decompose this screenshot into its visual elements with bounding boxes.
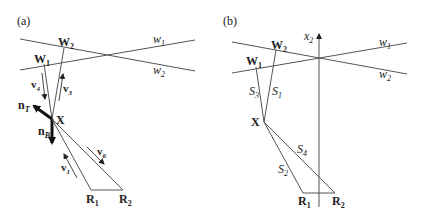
label-w2: w2 bbox=[379, 67, 391, 83]
segment-x-r2 bbox=[52, 119, 123, 190]
label-S1: S1 bbox=[272, 84, 282, 100]
label-W1: W1 bbox=[246, 54, 262, 70]
segment-S4 bbox=[264, 122, 335, 193]
label-W1: W1 bbox=[34, 52, 50, 68]
label-w1: w1 bbox=[153, 32, 165, 48]
panel-a-label: (a) bbox=[17, 14, 30, 28]
ray-x-w1 bbox=[44, 64, 52, 119]
label-W2: W2 bbox=[58, 35, 74, 51]
label-R2: R2 bbox=[119, 192, 132, 208]
segment-S2 bbox=[264, 122, 303, 193]
label-X: X bbox=[251, 115, 260, 129]
label-S4: S4 bbox=[297, 142, 307, 158]
label-v6: v6 bbox=[97, 145, 107, 160]
panel-a: (a) w1 w2 W2 W1 v4 v3 nT nB X v1 v6 R1 R… bbox=[17, 14, 195, 208]
label-w1: w1 bbox=[379, 35, 391, 51]
diagram-canvas: (a) w1 w2 W2 W1 v4 v3 nT nB X v1 v6 R1 R… bbox=[0, 0, 423, 217]
panel-b-label: (b) bbox=[223, 14, 237, 28]
label-nT: nT bbox=[18, 98, 31, 114]
label-R2: R2 bbox=[332, 194, 345, 210]
label-nB: nB bbox=[38, 124, 51, 140]
label-W2: W2 bbox=[271, 38, 287, 54]
panel-b: (b) w1 w2 x2 W2 W1 S3 S1 X S4 S2 R1 R2 bbox=[223, 14, 407, 210]
vector-nT-arrow bbox=[34, 106, 52, 119]
label-v4: v4 bbox=[31, 78, 41, 93]
label-S3: S3 bbox=[249, 84, 259, 100]
label-S2: S2 bbox=[278, 162, 288, 178]
vector-v4-arrow bbox=[42, 73, 45, 99]
label-R1: R1 bbox=[86, 192, 99, 208]
label-axis-x2: x2 bbox=[303, 29, 313, 45]
label-v3: v3 bbox=[63, 82, 73, 97]
label-R1: R1 bbox=[298, 194, 311, 210]
segment-x-r1 bbox=[52, 119, 91, 190]
